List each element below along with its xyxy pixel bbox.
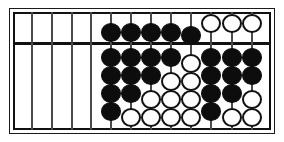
abacus-bead-lower-black[interactable]: [121, 48, 141, 67]
abacus-rod[interactable]: [31, 12, 33, 130]
abacus-bead-lower-black[interactable]: [201, 102, 221, 121]
abacus-bead-lower-black[interactable]: [242, 66, 262, 85]
abacus-bead-lower-black[interactable]: [101, 84, 121, 103]
abacus-rod[interactable]: [90, 12, 92, 130]
abacus-bead-lower-black[interactable]: [101, 102, 121, 121]
abacus-bead-lower-white[interactable]: [181, 54, 201, 73]
abacus-bead-lower-black[interactable]: [222, 48, 242, 67]
abacus-bead-lower-white[interactable]: [181, 72, 201, 91]
abacus-bead-upper-white[interactable]: [201, 14, 221, 33]
abacus-bead-lower-black[interactable]: [201, 48, 221, 67]
abacus-bead-lower-white[interactable]: [222, 108, 242, 127]
abacus-bead-lower-black[interactable]: [161, 48, 181, 67]
abacus-bead-lower-black[interactable]: [101, 48, 121, 67]
abacus-bead-lower-white[interactable]: [161, 72, 181, 91]
abacus-bead-lower-white[interactable]: [181, 108, 201, 127]
abacus-bead-lower-black[interactable]: [121, 84, 141, 103]
abacus-rod[interactable]: [51, 12, 53, 130]
abacus-bead-upper-black[interactable]: [141, 23, 161, 42]
abacus-bead-lower-white[interactable]: [141, 90, 161, 109]
abacus-bead-lower-white[interactable]: [242, 108, 262, 127]
abacus-bead-upper-white[interactable]: [242, 14, 262, 33]
abacus-bead-lower-white[interactable]: [181, 90, 201, 109]
abacus-bead-lower-black[interactable]: [242, 48, 262, 67]
abacus-bead-lower-white[interactable]: [121, 108, 141, 127]
abacus-deck: [13, 12, 271, 130]
abacus-bead-lower-black[interactable]: [222, 66, 242, 85]
abacus-bead-lower-black[interactable]: [101, 66, 121, 85]
abacus-bead-lower-white[interactable]: [141, 108, 161, 127]
abacus-bead-upper-black[interactable]: [161, 23, 181, 42]
abacus-bead-upper-black[interactable]: [121, 23, 141, 42]
abacus-bead-lower-white[interactable]: [242, 90, 262, 109]
abacus-bead-lower-black[interactable]: [201, 84, 221, 103]
abacus-rod[interactable]: [71, 12, 73, 130]
abacus-bead-upper-black[interactable]: [181, 26, 201, 45]
abacus-bead-lower-black[interactable]: [201, 66, 221, 85]
abacus-bead-lower-white[interactable]: [161, 90, 181, 109]
abacus-bead-upper-black[interactable]: [101, 23, 121, 42]
abacus-bead-lower-black[interactable]: [222, 84, 242, 103]
abacus-bead-lower-black[interactable]: [141, 66, 161, 85]
abacus-bead-lower-black[interactable]: [141, 48, 161, 67]
abacus-figure: [0, 0, 284, 142]
abacus-bead-upper-white[interactable]: [222, 14, 242, 33]
abacus-bead-lower-black[interactable]: [121, 66, 141, 85]
abacus-bead-lower-white[interactable]: [161, 108, 181, 127]
